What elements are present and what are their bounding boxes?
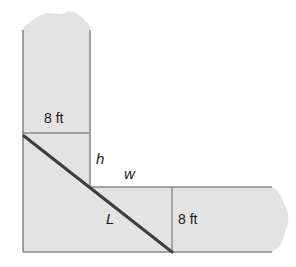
width-variable-label: w <box>124 165 136 182</box>
length-variable-label: L <box>106 210 114 227</box>
corridor-diagram: 8 ft 8 ft h w L <box>0 0 296 267</box>
hallway-fill <box>23 12 288 252</box>
right-width-label: 8 ft <box>178 211 198 227</box>
height-variable-label: h <box>96 150 104 167</box>
top-width-label: 8 ft <box>44 110 64 126</box>
